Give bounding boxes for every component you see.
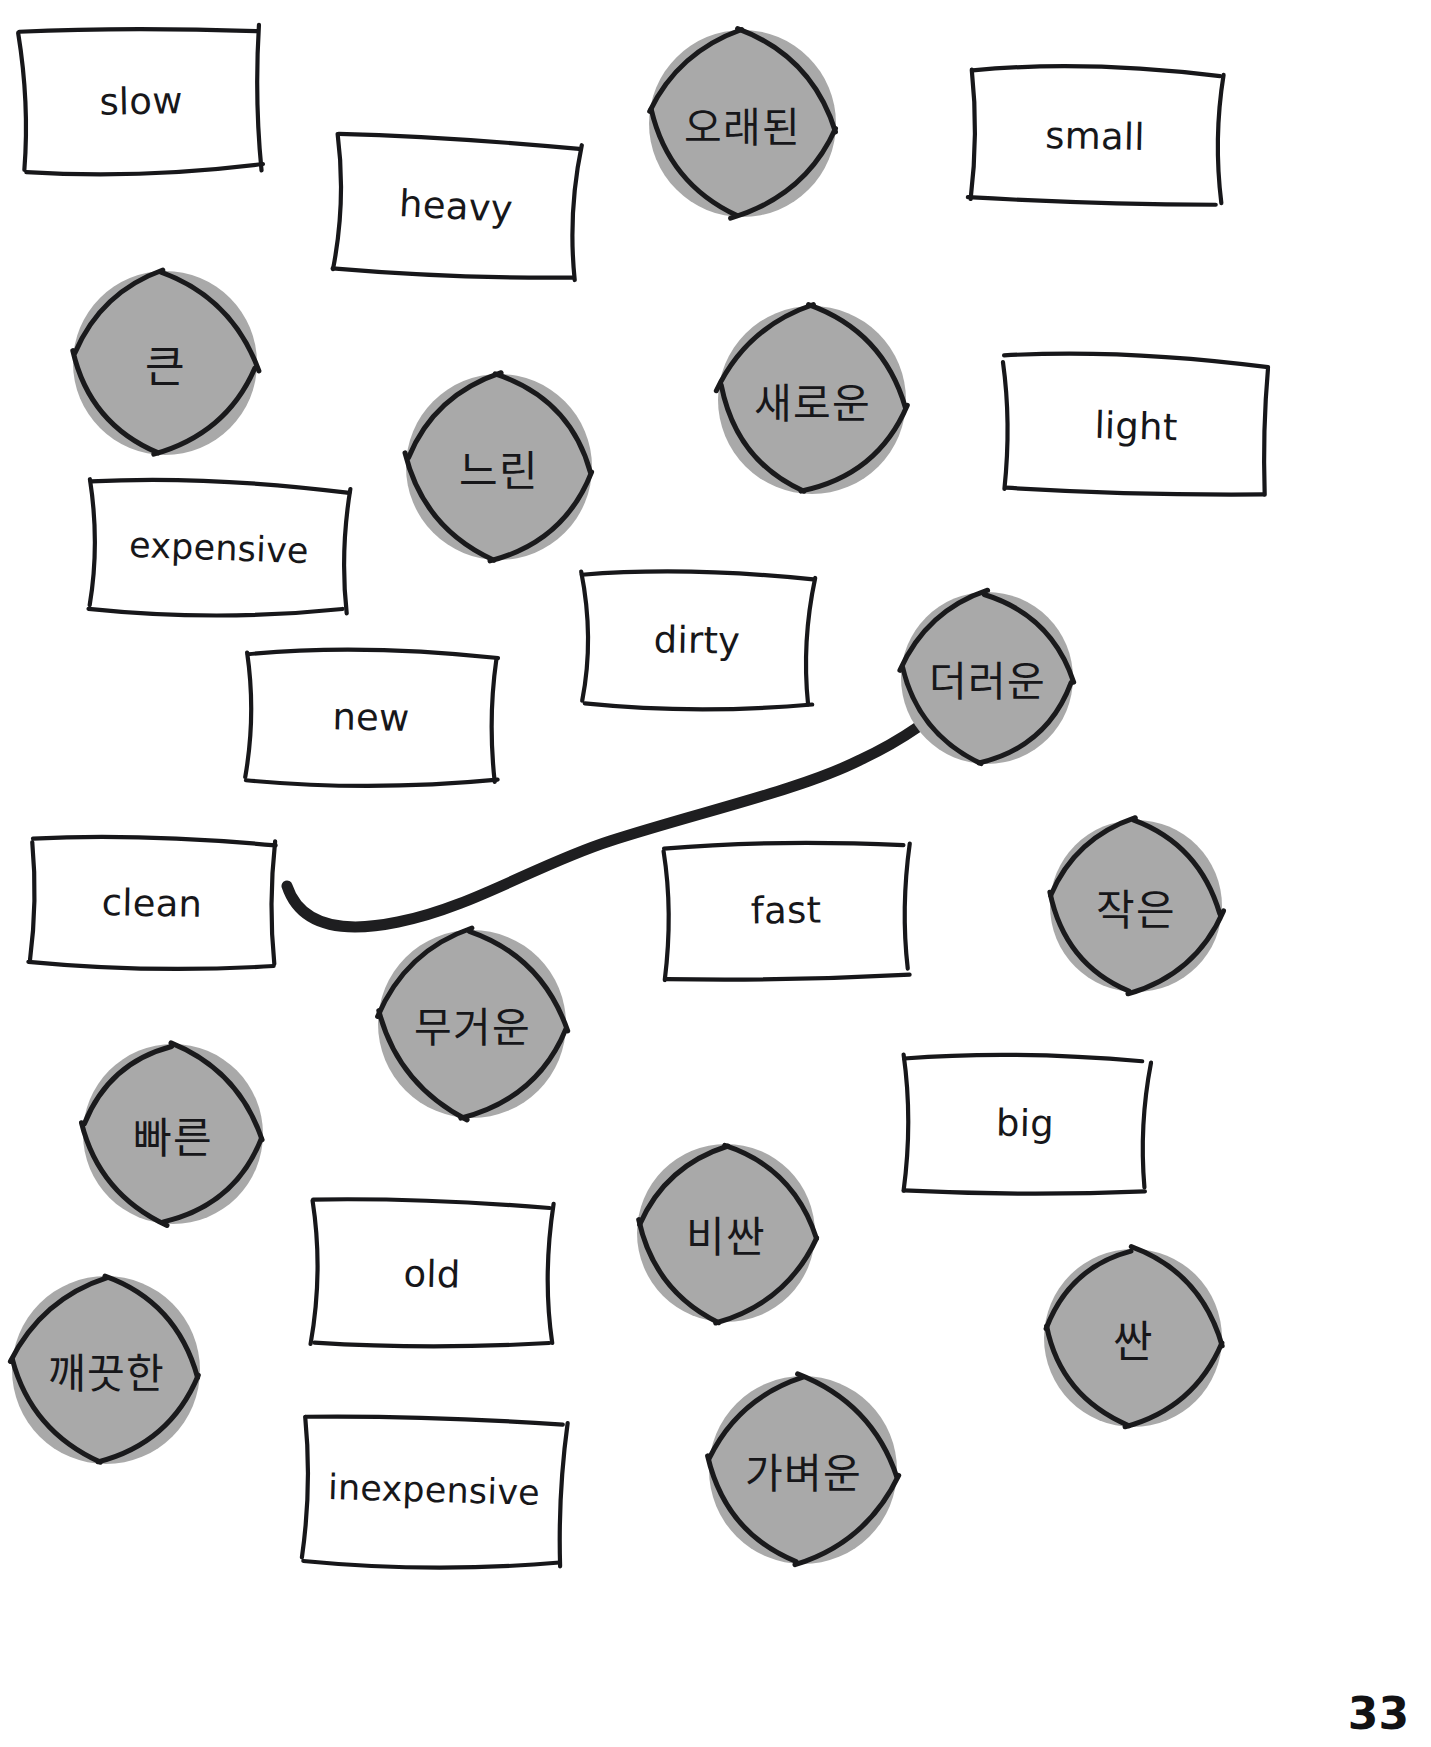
korean-word-card-빠른[interactable]: 빠른 <box>79 1040 267 1228</box>
english-word-card-fast[interactable]: fast <box>658 838 914 982</box>
korean-word-card-큰[interactable]: 큰 <box>69 267 261 459</box>
card-outline <box>899 1050 1151 1196</box>
english-word-card-small[interactable]: small <box>965 63 1226 208</box>
korean-word-card-싼[interactable]: 싼 <box>1040 1245 1226 1431</box>
card-outline <box>298 1410 570 1569</box>
korean-word-card-무거운[interactable]: 무거운 <box>374 926 570 1122</box>
card-outline <box>84 476 355 619</box>
english-word-card-heavy[interactable]: heavy <box>326 129 585 285</box>
card-outline <box>306 1195 558 1353</box>
card-outline <box>658 838 914 982</box>
card-outline <box>998 352 1274 500</box>
english-word-card-inexpensive[interactable]: inexpensive <box>298 1410 570 1569</box>
card-outline <box>79 1040 267 1228</box>
page-number: 33 <box>1348 1688 1409 1739</box>
card-outline <box>705 1372 901 1568</box>
card-outline <box>25 834 279 972</box>
card-outline <box>14 23 267 178</box>
english-word-card-dirty[interactable]: dirty <box>577 568 817 712</box>
english-word-card-light[interactable]: light <box>998 352 1274 500</box>
english-word-card-clean[interactable]: clean <box>25 834 279 972</box>
english-word-card-old[interactable]: old <box>306 1195 558 1353</box>
card-outline <box>714 302 910 498</box>
english-word-card-big[interactable]: big <box>899 1050 1151 1196</box>
korean-word-card-느린[interactable]: 느린 <box>402 370 596 564</box>
card-outline <box>69 267 261 459</box>
card-outline <box>965 63 1226 208</box>
english-word-card-new[interactable]: new <box>240 645 503 788</box>
korean-word-card-오래된[interactable]: 오래된 <box>645 26 840 221</box>
english-word-card-expensive[interactable]: expensive <box>84 476 355 619</box>
card-outline <box>645 26 840 221</box>
card-outline <box>1046 816 1226 996</box>
korean-word-card-깨끗한[interactable]: 깨끗한 <box>8 1272 204 1468</box>
card-outline <box>897 588 1077 768</box>
card-outline <box>8 1272 204 1468</box>
card-outline <box>577 568 817 712</box>
card-outline <box>633 1140 819 1326</box>
korean-word-card-새로운[interactable]: 새로운 <box>714 302 910 498</box>
korean-word-card-더러운[interactable]: 더러운 <box>897 588 1077 768</box>
card-outline <box>402 370 596 564</box>
korean-word-card-가벼운[interactable]: 가벼운 <box>705 1372 901 1568</box>
card-outline <box>374 926 570 1122</box>
card-outline <box>240 645 503 788</box>
korean-word-card-작은[interactable]: 작은 <box>1046 816 1226 996</box>
korean-word-card-비싼[interactable]: 비싼 <box>633 1140 819 1326</box>
english-word-card-slow[interactable]: slow <box>14 23 267 178</box>
card-outline <box>1040 1245 1226 1431</box>
card-outline <box>326 129 585 285</box>
